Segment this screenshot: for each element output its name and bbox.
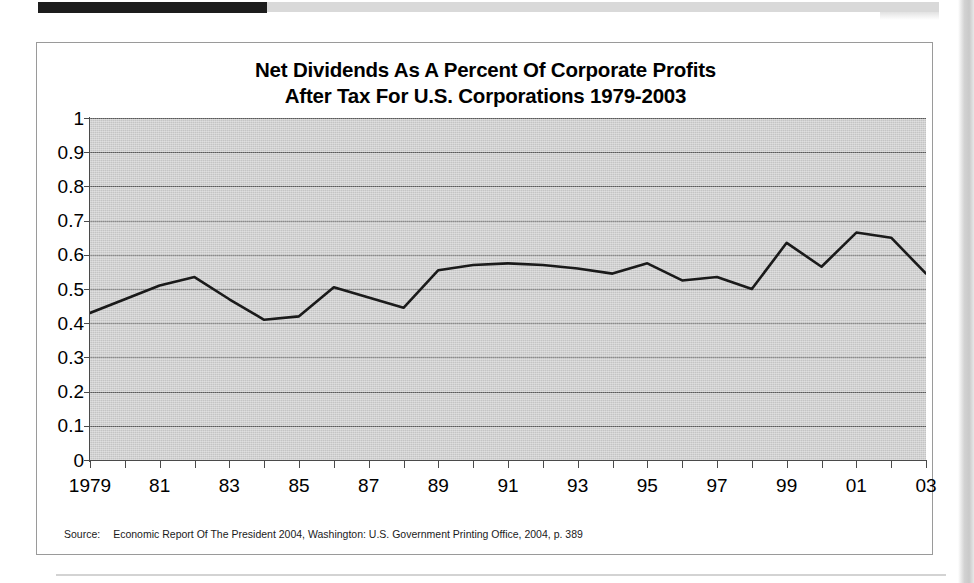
x-axis-tick (299, 461, 300, 468)
x-axis-tick (160, 461, 161, 468)
x-axis-tick-label: 89 (428, 475, 449, 497)
x-axis-tick-label: 93 (567, 475, 588, 497)
source-note: Source:Economic Report Of The President … (64, 528, 583, 540)
x-axis-labels: 1979818385878991939597990103 (90, 475, 926, 501)
x-axis-tick-label: 1979 (69, 475, 111, 497)
y-axis-tick-label: 0.2 (40, 382, 84, 401)
y-axis-tick-label: 0.5 (40, 280, 84, 299)
x-axis-tick-label: 01 (846, 475, 867, 497)
x-axis-tick (229, 461, 230, 468)
x-axis-tick-label: 81 (149, 475, 170, 497)
y-axis-tick-label: 0.1 (40, 416, 84, 435)
y-axis-tick-label: 0.4 (40, 314, 84, 333)
y-axis-tick-label: 1 (40, 109, 84, 128)
x-axis-tick (578, 461, 579, 468)
scan-artifact-right-band (958, 0, 974, 583)
x-axis-tick-label: 03 (915, 475, 936, 497)
x-axis-tick (508, 461, 509, 468)
x-axis-tick-label: 83 (219, 475, 240, 497)
y-axis-tick-label: 0.3 (40, 348, 84, 367)
x-axis-tick (369, 461, 370, 468)
y-axis-line (89, 117, 90, 462)
y-axis-tick-label: 0.9 (40, 143, 84, 162)
x-axis-tick-label: 97 (706, 475, 727, 497)
x-axis-tick-label: 87 (358, 475, 379, 497)
x-axis-tick-label: 99 (776, 475, 797, 497)
x-axis-tick-label: 85 (288, 475, 309, 497)
x-axis-tick (926, 461, 927, 468)
x-axis-tick (90, 461, 91, 468)
x-axis-tick (717, 461, 718, 468)
x-axis-tick (473, 461, 474, 468)
x-axis-tick (264, 461, 265, 468)
x-axis-tick (613, 461, 614, 468)
source-text: Economic Report Of The President 2004, W… (113, 528, 583, 540)
x-axis-tick (195, 461, 196, 468)
chart-title-line-2: After Tax For U.S. Corporations 1979-200… (37, 83, 934, 109)
y-axis-tick-label: 0.7 (40, 211, 84, 230)
y-axis-tick-label: 0 (40, 451, 84, 470)
x-axis-tick (787, 461, 788, 468)
data-series-line (90, 118, 926, 460)
x-axis-tick-label: 95 (637, 475, 658, 497)
x-axis-tick (647, 461, 648, 468)
x-axis-tick-label: 91 (497, 475, 518, 497)
source-label: Source: (64, 528, 100, 540)
chart-title: Net Dividends As A Percent Of Corporate … (37, 57, 934, 109)
scan-artifact-gray-fade (880, 12, 939, 20)
page-divider-rule (56, 574, 946, 576)
x-axis-tick (404, 461, 405, 468)
plot-area (90, 118, 926, 460)
x-axis-tick (334, 461, 335, 468)
chart-figure: Net Dividends As A Percent Of Corporate … (36, 42, 933, 555)
x-axis-tick (543, 461, 544, 468)
x-axis-tick (125, 461, 126, 468)
y-axis-tick-label: 0.6 (40, 245, 84, 264)
y-axis-tick-label: 0.8 (40, 177, 84, 196)
x-axis-tick (822, 461, 823, 468)
y-axis-labels: 10.90.80.70.60.50.40.30.20.10 (37, 118, 84, 460)
x-axis-tick (438, 461, 439, 468)
x-axis-tick (682, 461, 683, 468)
x-axis-tick (891, 461, 892, 468)
x-axis-tick (752, 461, 753, 468)
chart-title-line-1: Net Dividends As A Percent Of Corporate … (37, 57, 934, 83)
scan-artifact-black-bar (38, 2, 267, 13)
scan-artifact-gray-bar (267, 2, 939, 12)
x-axis-tick (856, 461, 857, 468)
